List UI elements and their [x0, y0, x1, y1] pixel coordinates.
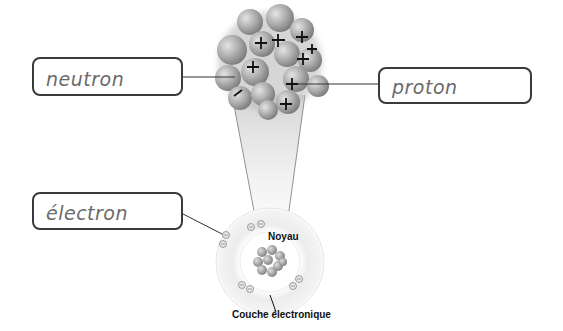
nucleus-cluster — [215, 4, 329, 120]
proton-label: proton — [392, 76, 458, 98]
atom — [216, 208, 324, 316]
proton-label-box[interactable]: proton — [378, 67, 532, 104]
neutron-label-box[interactable]: neutron — [32, 57, 183, 96]
electron-label-box[interactable]: électron — [32, 192, 183, 230]
neutron-label: neutron — [46, 68, 124, 90]
nucleus-caption: Noyau — [268, 231, 299, 242]
shell-caption: Couche électronique — [232, 309, 331, 320]
atom-diagram — [0, 0, 563, 331]
electron-label: électron — [46, 202, 128, 224]
electron-pointer — [183, 214, 226, 236]
